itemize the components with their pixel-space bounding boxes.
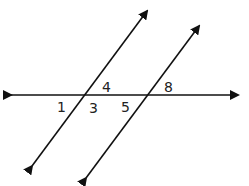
angle-label-4: 4 [102,79,111,95]
angle-label-5: 5 [121,99,130,115]
angle-label-3: 3 [89,100,98,116]
left-parallel-line [32,11,147,166]
angle-label-8: 8 [164,79,173,95]
angle-diagram: 1 3 4 5 8 [0,0,249,186]
right-parallel-line [86,26,199,178]
angle-label-1: 1 [57,99,66,115]
